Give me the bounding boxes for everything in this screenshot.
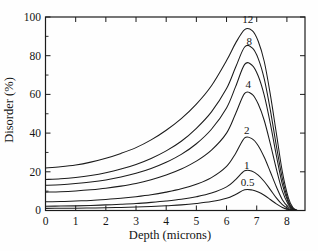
y-tick-label: 20 (30, 166, 42, 178)
chart-canvas: 012345678020406080100 1284210.5 Depth (m… (0, 0, 318, 251)
curve-dose-8 (46, 45, 298, 210)
curve-label-dose-0.5: 0.5 (241, 176, 255, 188)
x-tick-label: 0 (43, 215, 49, 227)
curve-label-dose-8: 8 (246, 35, 252, 47)
y-tick-label: 80 (30, 50, 42, 62)
curve-label-dose-4: 4 (246, 78, 252, 90)
y-tick-label: 40 (30, 127, 42, 139)
y-tick-label: 60 (30, 88, 42, 100)
y-axis-title: Disorder (%) (2, 77, 16, 143)
x-tick-label: 6 (224, 215, 230, 227)
curve-dose-unlabeled (46, 63, 298, 211)
curve-labels-group: 1284210.5 (241, 13, 255, 187)
y-tick-label: 0 (35, 204, 41, 216)
x-tick-label: 8 (284, 215, 290, 227)
x-tick-label: 5 (193, 215, 199, 227)
figure: 012345678020406080100 1284210.5 Depth (m… (0, 0, 318, 251)
x-tick-label: 1 (73, 215, 79, 227)
curves-group (46, 28, 298, 210)
x-axis-title: Depth (microns) (129, 228, 211, 242)
x-tick-label: 2 (103, 215, 109, 227)
curve-label-dose-12: 12 (242, 13, 253, 25)
x-tick-label: 3 (133, 215, 139, 227)
plot-border (46, 17, 306, 211)
curve-label-dose-2: 2 (244, 124, 250, 136)
x-tick-label: 4 (163, 215, 169, 227)
y-tick-label: 100 (24, 11, 42, 23)
x-tick-label: 7 (254, 215, 260, 227)
curve-label-dose-1: 1 (244, 159, 250, 171)
